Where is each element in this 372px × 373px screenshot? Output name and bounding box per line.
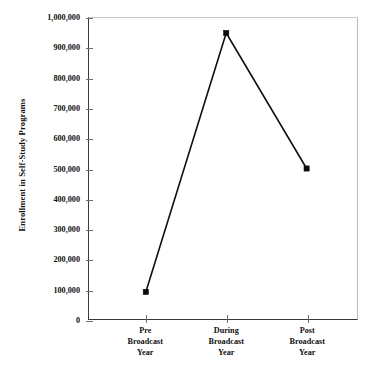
y-axis-tick-label: 200,000 xyxy=(22,255,80,264)
y-axis-tick-mark xyxy=(86,260,93,261)
series-line-enrollment xyxy=(146,33,307,292)
x-axis-category-label-line: Post xyxy=(259,325,355,336)
y-axis-tick-label: 800,000 xyxy=(22,73,80,82)
y-axis-tick-mark xyxy=(86,48,93,49)
y-axis-tick-mark xyxy=(86,79,93,80)
y-axis-tick-mark xyxy=(86,230,93,231)
x-axis-category-labels: PreBroadcastYearDuringBroadcastYearPostB… xyxy=(88,325,358,371)
y-axis-tick-label: 900,000 xyxy=(22,43,80,52)
y-axis-tick-mark xyxy=(86,200,93,201)
y-axis-tick-mark xyxy=(86,321,93,322)
y-axis-tick-labels: 0100,000200,000300,000400,000500,000600,… xyxy=(22,0,80,373)
x-axis-category-label-line: Year xyxy=(259,347,355,358)
y-axis-tick-mark xyxy=(86,291,93,292)
data-point-marker xyxy=(224,30,229,35)
x-axis-tick-mark xyxy=(227,315,228,323)
y-axis-tick-mark xyxy=(86,170,93,171)
y-axis-tick-mark xyxy=(86,139,93,140)
x-axis-category-label-line: Broadcast xyxy=(259,336,355,347)
y-axis-tick-label: 300,000 xyxy=(22,225,80,234)
data-point-marker xyxy=(143,289,148,294)
y-axis-tick-label: 600,000 xyxy=(22,134,80,143)
x-axis-category-label: PostBroadcastYear xyxy=(259,325,355,359)
y-axis-tick-label: 0 xyxy=(22,316,80,325)
x-axis-tick-mark xyxy=(146,315,147,323)
y-axis-tick-label: 700,000 xyxy=(22,103,80,112)
y-axis-tick-mark xyxy=(86,18,93,19)
y-axis-tick-label: 100,000 xyxy=(22,285,80,294)
x-axis-tick-mark xyxy=(308,315,309,323)
y-axis-tick-label: 1,000,000 xyxy=(22,13,80,22)
data-point-markers xyxy=(143,30,309,294)
plot-area xyxy=(88,17,358,320)
y-axis-tick-label: 500,000 xyxy=(22,164,80,173)
data-point-marker xyxy=(304,166,309,171)
line-chart: Enrollment in Self-Study Programs 0100,0… xyxy=(0,0,372,373)
y-axis-tick-label: 400,000 xyxy=(22,194,80,203)
y-axis-tick-mark xyxy=(86,109,93,110)
data-series-layer xyxy=(89,18,357,319)
